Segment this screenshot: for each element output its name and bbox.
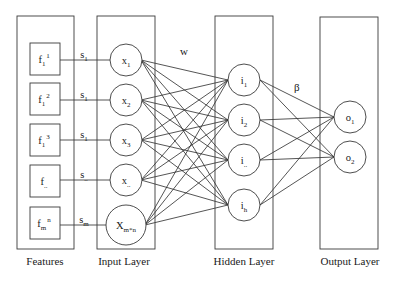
hidden-node — [228, 144, 260, 176]
scale-label: sm — [79, 214, 89, 228]
input-node — [106, 205, 146, 245]
connection-edges — [60, 60, 334, 225]
neural-network-diagram: f11s1f12s1f13s1f..s..fmnsmx1x2x3x..Xm*ni… — [0, 0, 394, 281]
hidden-node — [228, 64, 260, 96]
scale-label: s1 — [80, 129, 88, 143]
weight-label-w: w — [180, 45, 188, 57]
hidden-node — [228, 104, 260, 136]
edge-hidden-output — [260, 117, 334, 205]
weight-label-beta: β — [294, 81, 300, 93]
features-label: Features — [26, 255, 63, 267]
output-layer-label: Output Layer — [321, 255, 380, 267]
edge-hidden-output — [260, 117, 334, 120]
edge-hidden-output — [260, 117, 334, 160]
feature-box — [30, 165, 60, 197]
input-layer-label: Input Layer — [98, 255, 150, 267]
feature-box — [30, 83, 60, 115]
hidden-node — [228, 189, 260, 221]
scale-label: s.. — [80, 169, 88, 183]
edge-hidden-output — [260, 157, 334, 160]
edge-hidden-output — [260, 157, 334, 205]
scale-label: s1 — [80, 89, 88, 103]
feature-box — [30, 124, 60, 156]
labels: w β Features Input Layer Hidden Layer Ou… — [26, 45, 379, 267]
scale-label: s1 — [80, 49, 88, 63]
hidden-layer-label: Hidden Layer — [214, 255, 275, 267]
feature-box — [30, 207, 60, 239]
feature-box — [30, 43, 60, 75]
